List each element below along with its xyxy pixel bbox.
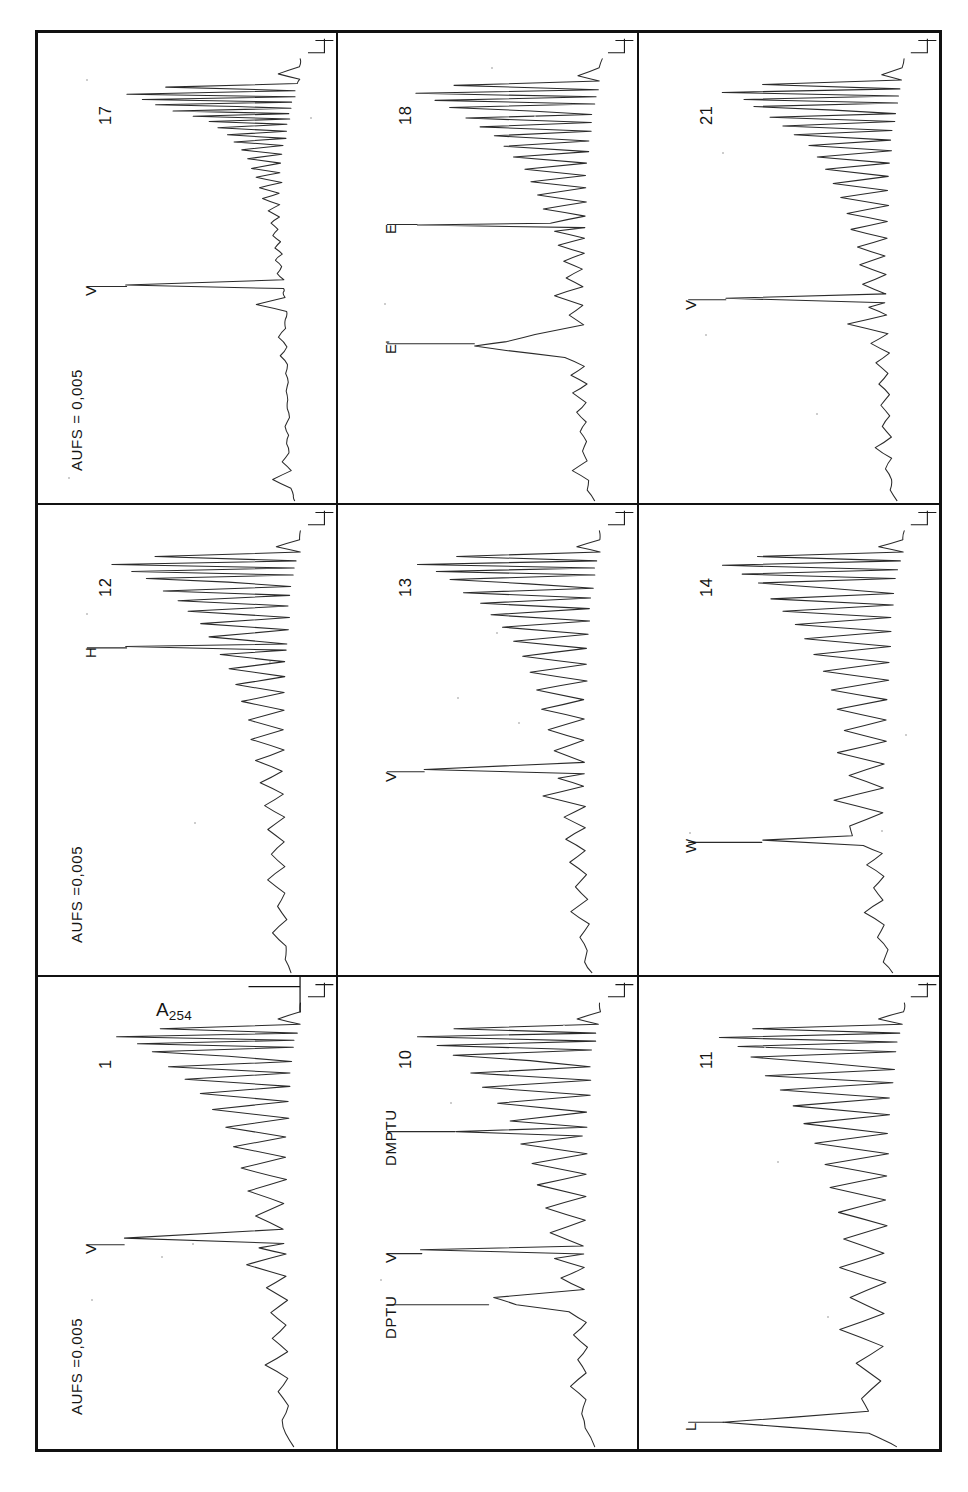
scan-speck [705, 334, 707, 336]
scan-speck [905, 734, 907, 736]
injection-marker [308, 511, 333, 525]
scan-speck [86, 79, 88, 81]
panel-14: 14W [639, 505, 939, 977]
chromatogram-trace [639, 33, 939, 503]
panel-1: 1AUFS =0,005A254V [38, 977, 338, 1449]
injection-marker [910, 983, 936, 997]
chromatogram-trace [639, 505, 939, 975]
scan-speck [764, 1046, 766, 1048]
trace-line [719, 1003, 904, 1447]
trace-line [722, 59, 904, 501]
scan-speck [192, 1243, 194, 1245]
scan-speck [380, 1279, 382, 1281]
trace-line [126, 59, 301, 501]
panel-18: 18EE' [338, 33, 638, 505]
injection-marker [308, 983, 333, 997]
scan-speck [496, 632, 498, 634]
scale-bar [249, 977, 301, 1013]
injection-marker [910, 511, 936, 525]
panel-13: 13V [338, 505, 638, 977]
scan-speck [491, 67, 493, 69]
scan-speck [722, 152, 724, 154]
injection-marker [608, 511, 633, 525]
panel-21: 21V [639, 33, 939, 505]
chromatogram-trace [38, 505, 336, 975]
trace-line [418, 531, 601, 973]
scan-speck [310, 117, 312, 119]
injection-marker [910, 39, 936, 53]
trace-line [416, 59, 602, 501]
panel-11: 11L [639, 977, 939, 1449]
chromatogram-trace [338, 33, 636, 503]
chromatogram-trace [38, 977, 336, 1449]
chromatogram-trace [639, 977, 939, 1449]
injection-marker [608, 39, 633, 53]
figure-frame: 17AUFS = 0,005V18EE'21V12AUFS =0,005H13V… [35, 30, 942, 1452]
panel-10: 10DMPTUVDPTU [338, 977, 638, 1449]
panel-12: 12AUFS =0,005H [38, 505, 338, 977]
trace-line [418, 1003, 601, 1447]
trace-line [117, 1003, 301, 1447]
scan-speck [816, 413, 818, 415]
panel-17: 17AUFS = 0,005V [38, 33, 338, 505]
chromatogram-trace [338, 977, 636, 1449]
scan-speck [518, 722, 520, 724]
trace-line [112, 531, 300, 973]
chromatogram-trace [38, 33, 336, 503]
trace-line [722, 531, 904, 973]
chromatogram-trace [338, 505, 636, 975]
panel-grid: 17AUFS = 0,005V18EE'21V12AUFS =0,005H13V… [38, 33, 939, 1449]
scan-speck [91, 1299, 93, 1301]
injection-marker [308, 39, 333, 53]
injection-marker [608, 983, 633, 997]
scan-speck [269, 661, 271, 663]
